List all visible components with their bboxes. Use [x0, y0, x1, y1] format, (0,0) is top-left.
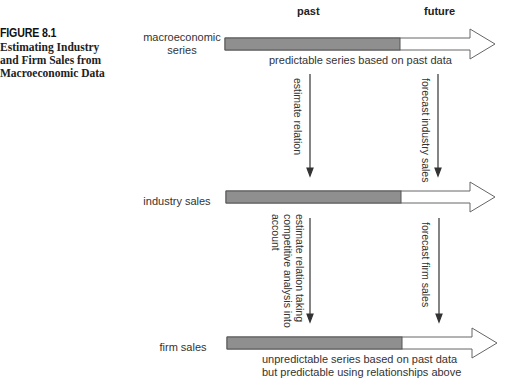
row-label-line: macroeconomic: [140, 31, 224, 44]
vtext-line: account: [270, 214, 282, 251]
forecast-firm-sales-label: forecast firm sales: [420, 222, 432, 307]
row-label-industry-sales: industry sales: [132, 195, 222, 208]
industry-sales-arrow: [226, 182, 495, 212]
forecast-industry-sales-label: forecast industry sales: [420, 78, 432, 182]
macro-note: predictable series based on past data: [269, 54, 452, 67]
firm-note-line: but predictable using relationships abov…: [262, 366, 461, 379]
firm-note-line: unpredictable series based on past data: [262, 353, 461, 366]
row-label-macroeconomic-series: macroeconomic series: [140, 31, 224, 57]
vtext-line: competitive analysis into: [282, 214, 294, 328]
estimate-relation-competitive-label: estimate relation taking competitive ana…: [270, 214, 306, 328]
row-label-firm-sales: firm sales: [148, 341, 218, 354]
row-label-line: series: [140, 44, 224, 57]
firm-note: unpredictable series based on past data …: [262, 353, 461, 379]
vtext-line: estimate relation taking: [294, 214, 306, 322]
estimate-relation-label: estimate relation: [292, 78, 304, 155]
